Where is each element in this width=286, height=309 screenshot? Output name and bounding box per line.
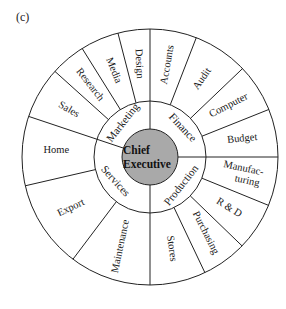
core-label-line: Chief bbox=[123, 144, 150, 156]
department-label-purchasing: Purchasing bbox=[191, 209, 222, 256]
department-divider bbox=[73, 202, 116, 260]
department-label-budget: Budget bbox=[226, 131, 257, 145]
department-label-design: Design bbox=[133, 49, 146, 80]
core-label-line: Executive bbox=[123, 158, 171, 170]
department-label-accounts: Accounts bbox=[158, 44, 176, 85]
department-divider bbox=[25, 170, 95, 186]
department-label-r-d: R & D bbox=[215, 195, 245, 219]
department-label-audit: Audit bbox=[190, 65, 213, 91]
department-label-research: Research bbox=[74, 66, 107, 104]
department-label-manufac-turing: Manufac-turing bbox=[220, 159, 265, 190]
chief-executive-core bbox=[122, 129, 178, 185]
department-label-stores: Stores bbox=[165, 235, 180, 263]
department-divider bbox=[118, 33, 136, 103]
department-label-sales: Sales bbox=[57, 99, 82, 120]
department-label-maintenance: Maintenance bbox=[109, 218, 131, 274]
department-label-media: Media bbox=[104, 56, 124, 85]
org-wheel-diagram: ChiefExecutiveMarketingFinanceProduction… bbox=[0, 0, 286, 309]
department-label-home: Home bbox=[43, 144, 69, 155]
department-label-export: Export bbox=[55, 196, 86, 218]
department-label-computer: Computer bbox=[207, 90, 250, 119]
